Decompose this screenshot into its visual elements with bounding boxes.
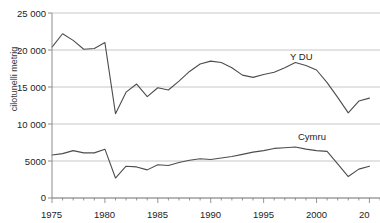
y-tick-25000: 25 000 (17, 8, 46, 19)
x-tick-marks (52, 198, 380, 203)
y-tick-15000: 15 000 (17, 82, 46, 93)
plot-area (52, 13, 380, 198)
series-label-cymru: Cymru (298, 131, 326, 142)
y-tick-marks (48, 13, 52, 198)
x-tick-2005-clipped: 20 (359, 209, 370, 220)
y-tick-5000: 5000 (25, 156, 46, 167)
series-label-uk: Y DU (290, 51, 313, 62)
x-tick-1980: 1980 (94, 209, 115, 220)
y-tick-10000: 10 000 (17, 119, 46, 130)
chart-container: cilotunelli metrig 25 000 20 000 15 000 … (0, 0, 380, 223)
x-tick-1975: 1975 (41, 209, 62, 220)
chart-title-clipped (0, 0, 380, 7)
x-tick-1995: 1995 (253, 209, 274, 220)
y-tick-labels: 25 000 20 000 15 000 10 000 5000 0 (0, 0, 46, 223)
plot-svg (52, 13, 380, 198)
x-tick-2000: 2000 (306, 209, 327, 220)
y-tick-20000: 20 000 (17, 45, 46, 56)
x-tick-1990: 1990 (200, 209, 221, 220)
series-line-uk (52, 34, 369, 114)
x-tick-1985: 1985 (147, 209, 168, 220)
y-tick-0: 0 (41, 192, 46, 203)
series-line-cymru (52, 147, 369, 178)
